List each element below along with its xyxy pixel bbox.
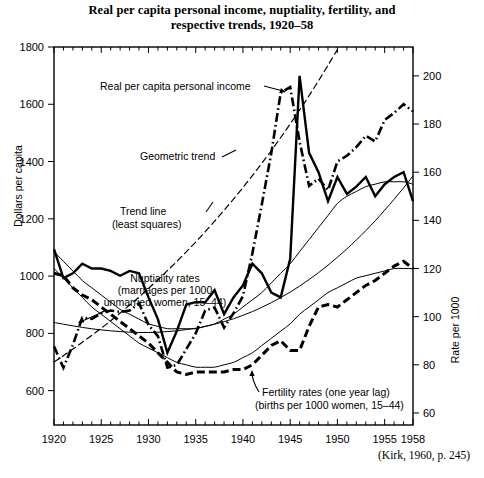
right-tick-label: 80 [423,359,435,371]
right-tick-label: 60 [423,407,435,419]
annotation-label: unmarried women, 15–44) [104,296,227,308]
annotation-label: Trend line [120,205,166,217]
left-tick-label: 1600 [20,98,44,110]
right-tick-label: 100 [423,311,441,323]
source-citation: (Kirk, 1960, p. 245) [378,449,470,461]
left-axis-title: Dollars per capita [12,145,24,227]
series-line [54,268,413,367]
annotation-label: Real per capita personal income [100,80,251,92]
x-tick-label: 1925 [89,433,113,445]
series-line [54,87,413,368]
right-axis-title: Rate per 1000 [449,297,461,364]
annotation-label: Geometric trend [140,150,215,162]
right-tick-label: 140 [423,214,441,226]
annotation-leader [264,86,283,91]
x-tick-label: 1955 [372,433,396,445]
annotation-leader [80,310,106,322]
left-tick-label: 1800 [20,41,44,53]
left-tick-label: 800 [26,327,44,339]
x-tick-label: 1940 [231,433,255,445]
annotation-leader [222,150,236,157]
x-tick-label: 1920 [42,433,66,445]
annotation-leader [206,202,213,212]
right-tick-label: 120 [423,263,441,275]
annotation-label: Nuptiality rates [130,272,199,284]
data-series-group [54,50,413,375]
right-tick-label: 200 [423,70,441,82]
x-tick-label: 1930 [136,433,160,445]
x-tick-label: 1958 [401,433,425,445]
annotation-label: (marriages per 1000 [118,284,213,296]
x-tick-label: 1935 [183,433,207,445]
x-tick-label: 1950 [325,433,349,445]
annotation-label: (births per 1000 women, 15–44) [255,399,404,411]
annotation-label: Fertility rates (one year lag) [262,386,390,398]
x-tick-label: 1945 [278,433,302,445]
axis-tick-labels: 1800160014001200100080060020018016014012… [20,41,442,445]
annotation-arrowhead [249,370,254,376]
chart-figure: Real per capita personal income, nuptial… [0,0,484,478]
annotation-label: (least squares) [112,218,181,230]
right-tick-label: 180 [423,118,441,130]
right-tick-label: 160 [423,166,441,178]
left-tick-label: 600 [26,385,44,397]
annotation-group: Real per capita personal incomeGeometric… [78,80,404,411]
chart-plot-area: 1800160014001200100080060020018016014012… [0,0,484,478]
left-tick-label: 1000 [20,270,44,282]
series-line [54,261,413,374]
